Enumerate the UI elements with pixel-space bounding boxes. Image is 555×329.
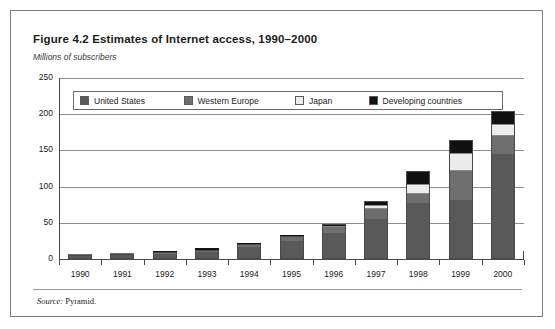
x-tickmark-2 xyxy=(144,260,145,265)
legend-item-developing-countries: Developing countries xyxy=(369,96,496,106)
chart-legend: United StatesWestern EuropeJapanDevelopi… xyxy=(73,91,503,110)
legend-swatch-icon xyxy=(369,96,378,105)
x-tickmark-3 xyxy=(186,260,187,265)
x-tickmark-10 xyxy=(482,260,483,265)
y-tick-label-0: 0 xyxy=(19,253,53,263)
source-divider xyxy=(33,289,522,290)
bar-outline xyxy=(110,254,134,259)
x-axis-label-2000: 2000 xyxy=(482,269,524,279)
y-tick-label-50: 50 xyxy=(19,217,53,227)
x-axis-label-1996: 1996 xyxy=(313,269,355,279)
x-tickmark-1 xyxy=(101,260,102,265)
legend-label: Developing countries xyxy=(383,96,462,106)
bar-1997 xyxy=(364,201,388,259)
legend-item-japan: Japan xyxy=(295,96,369,106)
x-axis-label-1994: 1994 xyxy=(228,269,270,279)
bar-1990 xyxy=(68,255,92,259)
bars-group xyxy=(59,11,524,259)
bar-1996 xyxy=(322,224,346,259)
x-axis-label-1990: 1990 xyxy=(59,269,101,279)
x-tickmark-5 xyxy=(270,260,271,265)
bar-1992 xyxy=(153,252,177,259)
legend-item-western-europe: Western Europe xyxy=(184,96,295,106)
bar-outline xyxy=(195,250,219,259)
bar-outline xyxy=(491,111,515,259)
x-tickmark-6 xyxy=(313,260,314,265)
legend-item-united-states: United States xyxy=(80,96,184,106)
bar-outline xyxy=(280,236,304,259)
legend-label: United States xyxy=(94,96,145,106)
y-tick-label-250: 250 xyxy=(19,72,53,82)
bar-1995 xyxy=(280,236,304,259)
y-tick-label-100: 100 xyxy=(19,181,53,191)
bar-1994 xyxy=(237,244,261,259)
legend-swatch-icon xyxy=(295,96,304,105)
x-tickmark-11 xyxy=(524,260,525,265)
bar-1991 xyxy=(110,254,134,259)
legend-swatch-icon xyxy=(80,96,89,105)
source-note: Source: Pyramid. xyxy=(37,296,96,306)
x-tickmark-9 xyxy=(439,260,440,265)
bar-outline xyxy=(237,244,261,259)
bar-outline xyxy=(364,201,388,259)
y-tick-label-150: 150 xyxy=(19,144,53,154)
x-tickmark-0 xyxy=(59,260,60,265)
bar-2000 xyxy=(491,111,515,259)
x-tickmark-8 xyxy=(397,260,398,265)
x-axis-label-1999: 1999 xyxy=(439,269,481,279)
legend-label: Western Europe xyxy=(198,96,259,106)
x-axis-label-1993: 1993 xyxy=(186,269,228,279)
figure-panel: Figure 4.2 Estimates of Internet access,… xyxy=(10,10,543,317)
bar-outline xyxy=(449,140,473,259)
x-tickmark-7 xyxy=(355,260,356,265)
legend-swatch-icon xyxy=(184,96,193,105)
bar-1998 xyxy=(406,171,430,259)
x-axis-label-1998: 1998 xyxy=(397,269,439,279)
bar-1999 xyxy=(449,140,473,259)
source-label: Source: xyxy=(37,296,63,306)
bar-outline xyxy=(322,224,346,259)
x-axis-line xyxy=(59,259,524,260)
x-axis-label-1992: 1992 xyxy=(144,269,186,279)
x-axis-label-1995: 1995 xyxy=(270,269,312,279)
x-axis-label-1997: 1997 xyxy=(355,269,397,279)
chart-plot-area: 050100150200250 199019911992199319941995… xyxy=(11,11,544,318)
bar-outline xyxy=(68,255,92,259)
source-value: Pyramid. xyxy=(65,296,96,306)
y-tick-label-200: 200 xyxy=(19,108,53,118)
bar-outline xyxy=(153,252,177,259)
x-axis-label-1991: 1991 xyxy=(101,269,143,279)
bar-outline xyxy=(406,171,430,259)
bar-1993 xyxy=(195,250,219,259)
x-tickmark-4 xyxy=(228,260,229,265)
legend-label: Japan xyxy=(309,96,332,106)
